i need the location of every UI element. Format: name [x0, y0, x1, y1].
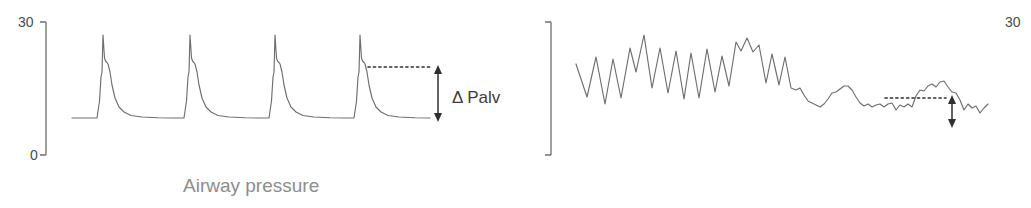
figure-container: 30 0 Δ Palv Airway pressure 30 0 Δ PAOP … [0, 0, 1031, 208]
airway-pressure-trace [72, 35, 430, 118]
panel-airway-pressure: 30 0 Δ Palv Airway pressure [0, 0, 520, 208]
y-axis-bracket [40, 22, 46, 155]
panel-pap-paop: 30 0 Δ PAOP PAP PAOP [500, 0, 1031, 208]
airway-pressure-caption: Airway pressure [183, 176, 319, 195]
y-axis-bracket [545, 22, 551, 155]
delta-palv-arrow [434, 65, 442, 122]
delta-paop-arrow [948, 95, 956, 128]
left-y-axis-max-label: 30 [18, 15, 34, 29]
delta-palv-label: Δ Palv [452, 89, 500, 106]
left-y-axis-min-label: 0 [30, 148, 38, 162]
pap-paop-plot [500, 0, 1031, 208]
right-y-axis-max-label: 30 [1005, 15, 1021, 29]
pap-paop-trace [576, 35, 988, 113]
